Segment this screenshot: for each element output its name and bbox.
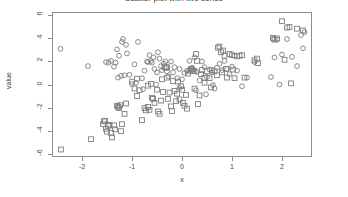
data-point <box>277 82 282 87</box>
y-tick-mark <box>48 154 52 155</box>
data-point <box>151 55 156 60</box>
data-point <box>124 42 129 47</box>
data-point <box>282 57 287 62</box>
data-point <box>170 109 175 114</box>
data-point <box>132 86 137 91</box>
y-tick-mark <box>48 131 52 132</box>
data-point <box>169 59 174 64</box>
data-point <box>140 118 145 123</box>
x-tick-label: 2 <box>274 163 290 170</box>
data-point <box>125 51 130 56</box>
data-point <box>58 46 63 51</box>
data-point <box>122 111 127 116</box>
data-point <box>132 62 137 67</box>
data-point <box>187 59 192 64</box>
data-point <box>140 76 145 81</box>
data-point <box>177 67 182 72</box>
y-tick-label: -6 <box>36 145 43 159</box>
data-point <box>301 46 306 51</box>
data-point <box>184 92 189 97</box>
data-point <box>117 53 122 58</box>
data-point <box>157 56 162 61</box>
scatter-plot-figure: Scatter plot with two series value x 642… <box>0 0 348 197</box>
data-point <box>295 26 300 31</box>
x-tick-label: -1 <box>124 163 140 170</box>
data-point <box>290 54 295 59</box>
y-tick-mark <box>48 38 52 39</box>
x-tick-label: 1 <box>224 163 240 170</box>
data-point <box>155 70 160 75</box>
data-point <box>181 101 186 106</box>
data-point <box>59 147 64 152</box>
data-point <box>302 30 307 35</box>
data-point <box>121 37 126 42</box>
x-axis-title: x <box>52 176 312 183</box>
y-tick-label: -4 <box>36 122 43 136</box>
data-point <box>285 37 290 42</box>
data-point <box>196 102 201 107</box>
data-point <box>124 101 129 106</box>
data-point <box>136 40 141 45</box>
y-tick-label: 6 <box>36 7 43 21</box>
data-point <box>135 94 140 99</box>
data-point <box>155 87 160 92</box>
y-tick-mark <box>48 85 52 86</box>
data-point <box>171 70 176 75</box>
data-point <box>272 55 277 60</box>
data-point <box>166 96 171 101</box>
data-point <box>222 53 227 58</box>
y-tick-label: 0 <box>36 76 43 90</box>
data-point <box>110 135 115 140</box>
x-tick-mark <box>82 157 83 161</box>
data-point <box>177 97 182 102</box>
data-point <box>149 82 154 87</box>
x-tick-mark <box>182 157 183 161</box>
data-point <box>197 78 202 83</box>
data-point <box>119 129 124 134</box>
x-tick-mark <box>232 157 233 161</box>
data-point <box>202 80 207 85</box>
x-tick-mark <box>282 157 283 161</box>
data-point <box>120 122 125 127</box>
x-tick-label: -2 <box>74 163 90 170</box>
data-point <box>295 64 300 69</box>
data-point <box>89 137 94 142</box>
y-tick-mark <box>48 15 52 16</box>
data-point <box>86 64 91 69</box>
data-points-layer <box>52 12 312 157</box>
data-point <box>269 75 274 80</box>
y-tick-label: 2 <box>36 53 43 67</box>
data-point <box>154 82 159 87</box>
data-point <box>200 59 205 64</box>
data-point <box>280 52 285 57</box>
y-tick-label: 4 <box>36 30 43 44</box>
data-point <box>122 73 127 78</box>
data-point <box>217 61 222 66</box>
y-tick-mark <box>48 108 52 109</box>
data-point <box>240 84 245 89</box>
data-point <box>280 19 285 24</box>
data-point <box>161 90 166 95</box>
data-point <box>174 99 179 104</box>
data-point <box>167 90 172 95</box>
y-tick-label: -2 <box>36 99 43 113</box>
x-tick-label: 0 <box>174 163 190 170</box>
x-tick-mark <box>132 157 133 161</box>
data-point <box>156 50 161 55</box>
data-point <box>115 47 120 52</box>
data-point <box>172 65 177 70</box>
y-axis-title: value <box>5 61 12 101</box>
data-point <box>222 59 227 64</box>
data-point <box>160 77 165 82</box>
data-point <box>159 98 164 103</box>
y-tick-mark <box>48 61 52 62</box>
data-point <box>197 93 202 98</box>
data-point <box>289 81 294 86</box>
chart-title: Scatter plot with two series <box>0 0 348 3</box>
data-point <box>194 88 199 93</box>
data-point <box>142 68 147 73</box>
data-point <box>232 76 237 81</box>
data-point <box>204 92 209 97</box>
data-point <box>127 72 132 77</box>
data-point <box>169 104 174 109</box>
